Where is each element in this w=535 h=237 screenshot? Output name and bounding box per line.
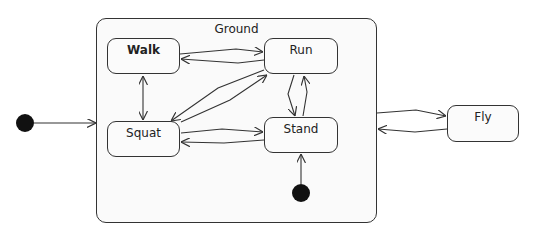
transition-walk-to-run xyxy=(180,49,263,54)
transition-arrows xyxy=(0,0,535,237)
transition-run-to-stand xyxy=(288,75,295,116)
transition-squat-to-stand xyxy=(181,129,263,133)
state-diagram: Ground Walk Run Squat Stand Fly xyxy=(0,0,535,237)
transition-fly-to-ground xyxy=(378,129,447,132)
transition-ground-to-fly xyxy=(377,110,446,116)
transition-squat-to-run xyxy=(181,75,267,122)
transition-stand-to-run xyxy=(303,76,307,116)
transition-stand-to-squat xyxy=(181,140,264,143)
transition-run-to-walk xyxy=(181,59,264,63)
transition-run-to-squat xyxy=(171,70,264,121)
